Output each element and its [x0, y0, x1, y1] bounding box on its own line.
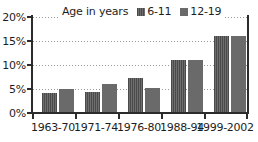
- y-tick-mark-10: [27, 64, 32, 66]
- y-tick-label-15: 15%: [0, 36, 26, 47]
- x-tick-mark-0: [32, 113, 34, 119]
- bar-group-1963-70: [39, 17, 77, 113]
- y-tick-mark-15: [27, 40, 32, 42]
- bar-1971-74-12-19: [102, 84, 117, 113]
- x-tick-mark-5: [246, 113, 248, 119]
- plot-right-border: [247, 15, 249, 114]
- x-tick-mark-3: [161, 113, 163, 119]
- bar-group-1971-74: [82, 17, 120, 113]
- bar-chart: 20% 15% 10% 5% 0% 1963-70 1971-74 1976-8…: [0, 0, 258, 142]
- legend-title: Age in years: [62, 5, 128, 18]
- y-tick-label-20: 20%: [0, 12, 26, 23]
- legend-swatch-icon-6-11: [137, 8, 145, 16]
- bar-1999-2002-12-19: [231, 36, 246, 113]
- bar-1988-94-12-19: [188, 60, 203, 113]
- x-tick-mark-2: [118, 113, 120, 119]
- bar-1963-70-12-19: [59, 89, 74, 113]
- y-tick-label-0: 0%: [0, 108, 26, 119]
- y-tick-mark-20: [27, 16, 32, 18]
- legend-swatch-icon-12-19: [180, 8, 188, 16]
- y-tick-label-10: 10%: [0, 60, 26, 71]
- bar-1988-94-6-11: [171, 60, 186, 113]
- bar-1971-74-6-11: [85, 92, 100, 113]
- legend-entry-12-19[interactable]: 12-19: [180, 5, 221, 18]
- bar-1976-80-12-19: [145, 88, 160, 113]
- bar-1999-2002-6-11: [214, 36, 229, 113]
- chart-legend: Age in years 6-11 12-19: [58, 4, 225, 19]
- x-tick-label-1999-2002: 1999-2002: [190, 122, 258, 133]
- bar-1963-70-6-11: [42, 93, 57, 113]
- bar-group-1976-80: [125, 17, 163, 113]
- x-tick-mark-1: [75, 113, 77, 119]
- bar-group-1999-2002: [211, 17, 249, 113]
- y-tick-mark-5: [27, 88, 32, 90]
- x-tick-mark-4: [204, 113, 206, 119]
- bar-1976-80-6-11: [128, 78, 143, 113]
- legend-entry-6-11[interactable]: 6-11: [137, 5, 171, 18]
- x-axis-line: [31, 112, 248, 114]
- plot-area: [33, 17, 248, 113]
- bar-group-1988-94: [168, 17, 206, 113]
- legend-label-6-11: 6-11: [147, 5, 171, 18]
- y-tick-label-5: 5%: [0, 84, 26, 95]
- legend-label-12-19: 12-19: [190, 5, 221, 18]
